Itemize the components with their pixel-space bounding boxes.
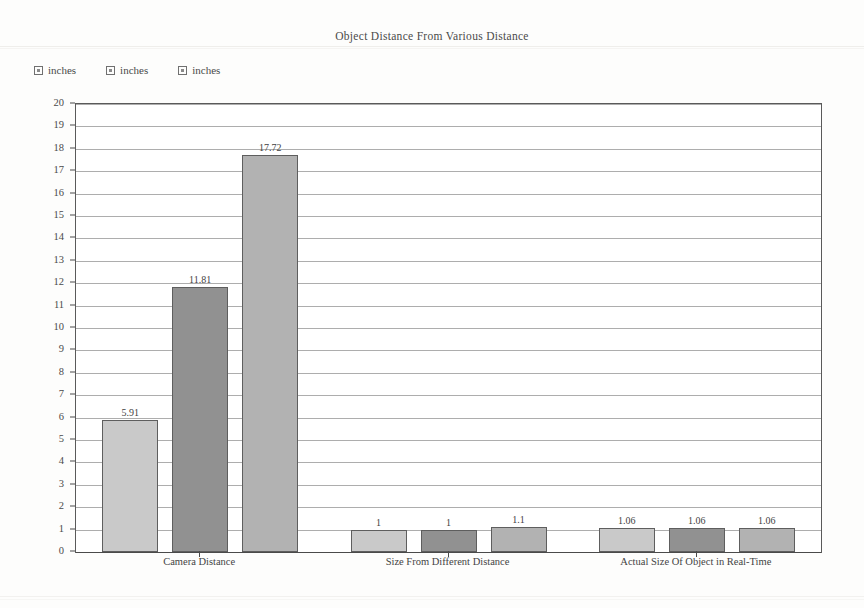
- scan-artifact-line-bottom-secondary: [0, 599, 864, 600]
- legend-swatch-icon: [178, 66, 187, 75]
- x-axis-category-label: Actual Size Of Object in Real-Time: [620, 556, 771, 567]
- bar: [491, 527, 547, 552]
- y-axis-tick-label: 13: [54, 255, 65, 266]
- bar-value-label: 17.72: [259, 143, 282, 153]
- y-axis-tick-label: 18: [54, 143, 65, 154]
- gridline: [76, 485, 821, 486]
- gridline: [76, 418, 821, 419]
- x-axis-group-tick: [199, 551, 200, 557]
- gridline: [76, 462, 821, 463]
- scan-artifact-line-top: [0, 46, 864, 47]
- bar-value-label: 1.06: [618, 516, 636, 526]
- gridline: [76, 261, 821, 262]
- bar-value-label: 11.81: [189, 275, 211, 285]
- gridline: [76, 216, 821, 217]
- scan-artifact-line-bottom: [0, 596, 864, 597]
- gridline: [76, 283, 821, 284]
- bars-layer: 5.9111.8117.72111.11.061.061.06: [76, 104, 821, 552]
- y-axis-tick-label: 17: [54, 165, 65, 176]
- legend-label: inches: [192, 64, 220, 76]
- y-axis-tick-label: 12: [54, 277, 65, 288]
- y-axis-tick-label: 5: [59, 434, 64, 445]
- chart-title: Object Distance From Various Distance: [0, 30, 864, 42]
- bar: [739, 528, 795, 552]
- legend-item: inches: [106, 64, 148, 76]
- y-axis-tick-label: 4: [59, 456, 64, 467]
- gridline: [76, 104, 821, 105]
- y-axis-tick-label: 16: [54, 187, 65, 198]
- y-axis-tick-label: 3: [59, 479, 64, 490]
- bar: [172, 287, 228, 552]
- y-axis-tick-label: 7: [59, 389, 64, 400]
- x-axis-group-tick: [448, 551, 449, 557]
- y-axis-tick-label: 6: [59, 411, 64, 422]
- bar: [599, 528, 655, 552]
- y-axis-tick-label: 10: [54, 322, 65, 333]
- bar-value-label: 1.06: [758, 516, 776, 526]
- gridline: [76, 328, 821, 329]
- y-axis-tick-label: 1: [59, 523, 64, 534]
- bar-value-label: 1.06: [688, 516, 706, 526]
- gridline: [76, 552, 821, 553]
- y-axis-tick-label: 0: [59, 546, 64, 557]
- y-axis: 01234567891011121314151617181920: [0, 103, 75, 551]
- y-axis-tick-label: 8: [59, 367, 64, 378]
- y-axis-tick-label: 9: [59, 344, 64, 355]
- gridline: [76, 238, 821, 239]
- gridline: [76, 350, 821, 351]
- gridline: [76, 306, 821, 307]
- gridline: [76, 440, 821, 441]
- y-axis-tick-label: 19: [54, 120, 65, 131]
- legend-item: inches: [34, 64, 76, 76]
- gridline: [76, 126, 821, 127]
- bar-value-label: 5.91: [121, 408, 139, 418]
- x-axis-category-labels: Camera DistanceSize From Different Dista…: [75, 556, 820, 576]
- chart-legend: inchesinchesinches: [34, 64, 220, 76]
- y-axis-tick-label: 11: [54, 299, 64, 310]
- legend-swatch-icon: [34, 66, 43, 75]
- x-axis-category-label: Size From Different Distance: [386, 556, 510, 567]
- plot-area: 5.9111.8117.72111.11.061.061.06: [75, 103, 822, 553]
- gridlines: [76, 104, 821, 552]
- bar: [351, 530, 407, 552]
- bar: [669, 528, 725, 552]
- gridline: [76, 530, 821, 531]
- y-axis-tick-label: 14: [54, 232, 65, 243]
- bar: [242, 155, 298, 552]
- y-axis-tick-label: 2: [59, 501, 64, 512]
- bar-value-label: 1: [376, 518, 381, 528]
- bar: [102, 420, 158, 552]
- y-axis-tick-label: 15: [54, 210, 65, 221]
- legend-label: inches: [120, 64, 148, 76]
- gridline: [76, 171, 821, 172]
- scan-artifact-line-top-secondary: [0, 48, 864, 49]
- bar: [421, 530, 477, 552]
- bar-value-label: 1.1: [512, 515, 525, 525]
- bar-value-label: 1: [446, 518, 451, 528]
- legend-label: inches: [48, 64, 76, 76]
- gridline: [76, 395, 821, 396]
- gridline: [76, 149, 821, 150]
- y-axis-tick-label: 20: [54, 98, 65, 109]
- x-axis-category-label: Camera Distance: [163, 556, 235, 567]
- gridline: [76, 194, 821, 195]
- legend-swatch-icon: [106, 66, 115, 75]
- x-axis-group-tick: [696, 551, 697, 557]
- gridline: [76, 507, 821, 508]
- gridline: [76, 373, 821, 374]
- legend-item: inches: [178, 64, 220, 76]
